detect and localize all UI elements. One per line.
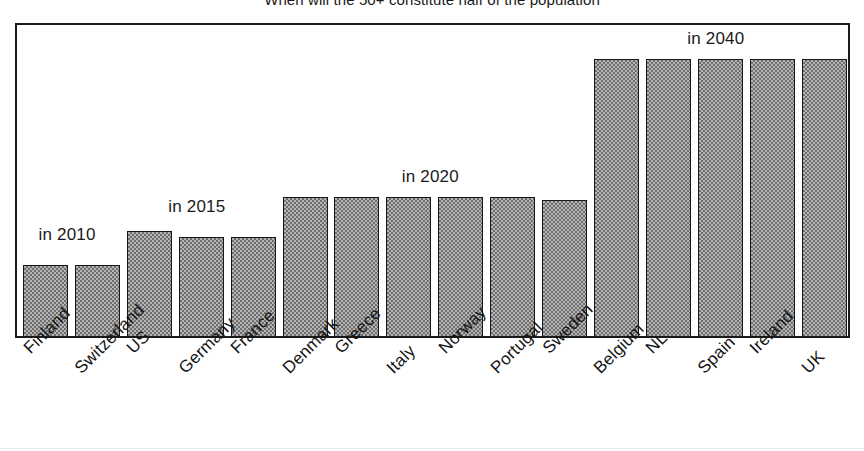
annotation-in-2010: in 2010 <box>38 225 95 245</box>
bar-spain <box>698 59 743 337</box>
bar-uk <box>802 59 847 337</box>
bar-denmark <box>283 197 328 337</box>
bar-chart: When will the 50+ constitute half of the… <box>0 0 864 451</box>
bar-belgium <box>594 59 639 337</box>
bar-nl <box>646 59 691 337</box>
annotation-in-2040: in 2040 <box>687 29 744 49</box>
annotation-in-2020: in 2020 <box>402 167 459 187</box>
bar-portugal <box>490 197 535 337</box>
x-label-uk: UK <box>798 347 829 378</box>
chart-title-text: When will the 50+ constitute half of the… <box>264 0 600 8</box>
x-label-italy: Italy <box>383 341 420 378</box>
x-axis-labels: FinlandSwitzerlandUSGermanyFranceDenmark… <box>0 338 864 451</box>
scan-artifact <box>0 448 864 449</box>
bar-ireland <box>750 59 795 337</box>
bar-italy <box>386 197 431 337</box>
x-label-spain: Spain <box>694 333 740 379</box>
annotation-in-2015: in 2015 <box>168 197 225 217</box>
chart-title: When will the 50+ constitute half of the… <box>0 0 864 8</box>
